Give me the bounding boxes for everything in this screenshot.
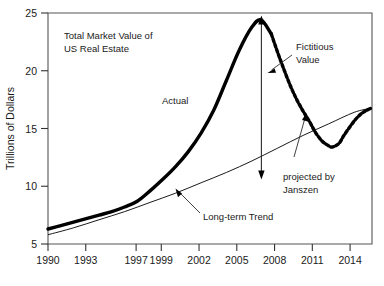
long-term-trend-leader — [176, 189, 201, 214]
x-tick-label-1993: 1993 — [74, 254, 98, 266]
x-tick-label-1999: 1999 — [150, 254, 174, 266]
chart-title-line-2: US Real Estate — [64, 43, 129, 54]
projected-by-janszen-label-line-1: projected by — [283, 171, 335, 182]
x-tick-label-2005: 2005 — [225, 254, 249, 266]
projected-leader-line — [294, 118, 305, 157]
y-tick-label-5: 5 — [31, 238, 37, 250]
trend-leader-line — [179, 192, 200, 213]
x-axis-tick-labels: 1990 1993 1997 1999 2002 2005 2008 2011 … — [36, 254, 362, 266]
y-axis-title: Trillions of Dollars — [4, 87, 16, 170]
x-tick-label-1990: 1990 — [36, 254, 60, 266]
y-axis-ticks — [41, 13, 48, 244]
x-tick-label-1997: 1997 — [124, 254, 148, 266]
y-axis-tick-labels: 25 20 15 10 5 — [25, 7, 37, 250]
fictitious-value-label-line-2: Value — [296, 54, 320, 65]
fictitious-value-label-line-1: Fictitious — [296, 41, 334, 52]
annotations-group: Total Market Value of US Real Estate Act… — [64, 30, 335, 222]
span-arrow-head-bottom — [258, 171, 264, 180]
chart-title-line-1: Total Market Value of — [64, 30, 153, 41]
actual-label: Actual — [162, 95, 188, 106]
y-tick-label-10: 10 — [25, 180, 37, 192]
projected-by-janszen-label-line-2: Janszen — [283, 184, 318, 195]
real-estate-value-chart: 25 20 15 10 5 Trillions of Dollars 1990 … — [0, 0, 384, 286]
x-tick-label-2011: 2011 — [301, 254, 324, 266]
y-tick-label-20: 20 — [25, 65, 37, 77]
x-axis-ticks — [48, 244, 350, 251]
long-term-trend-label: Long-term Trend — [203, 211, 273, 222]
x-tick-label-2014: 2014 — [338, 254, 362, 266]
y-tick-label-15: 15 — [25, 123, 37, 135]
y-tick-label-25: 25 — [25, 7, 37, 19]
x-tick-label-2002: 2002 — [187, 254, 211, 266]
chart-container: 25 20 15 10 5 Trillions of Dollars 1990 … — [0, 0, 384, 286]
projected-leader — [294, 113, 308, 157]
x-tick-label-2008: 2008 — [263, 254, 287, 266]
